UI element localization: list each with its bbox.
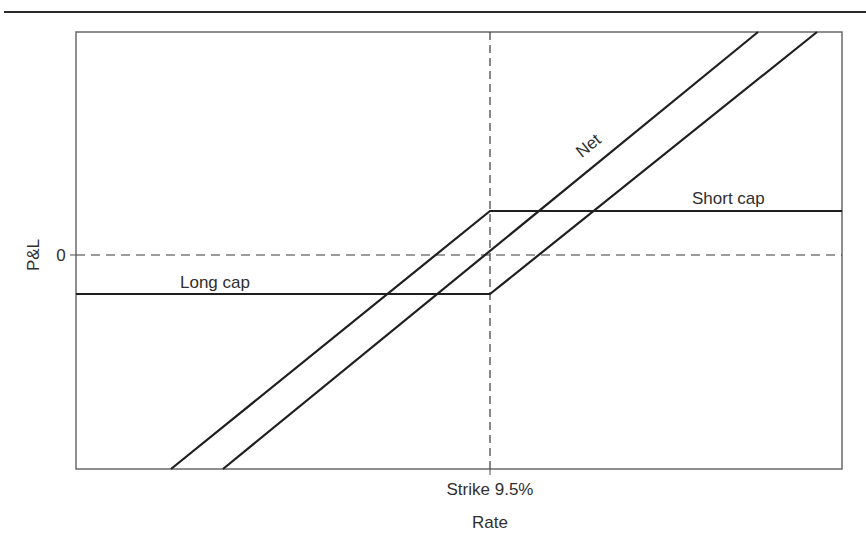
y-axis-label: P&L: [24, 239, 43, 271]
long-cap-label: Long cap: [180, 273, 250, 292]
short-cap-label: Short cap: [692, 189, 765, 208]
cap-payoff-chart: Long cap Short cap Net 0 P&L Strike 9.5%…: [0, 0, 866, 538]
x-strike-tick-label: Strike 9.5%: [447, 480, 534, 499]
plot-frame: [76, 32, 842, 469]
y-zero-tick-label: 0: [56, 246, 65, 265]
net-label: Net: [572, 130, 605, 162]
x-axis-label: Rate: [472, 513, 508, 532]
